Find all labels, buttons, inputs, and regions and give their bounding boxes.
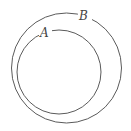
set-b-label: B — [78, 9, 88, 23]
venn-diagram: B A — [0, 0, 131, 131]
set-b-circle — [12, 13, 122, 123]
set-a-label: A — [39, 26, 49, 40]
set-a-circle — [17, 30, 101, 114]
